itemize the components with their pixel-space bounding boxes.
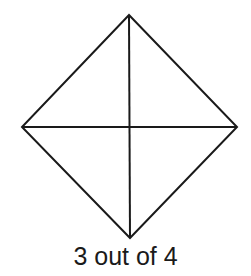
fraction-caption: 3 out of 4 xyxy=(0,242,251,270)
rhombus-diagram xyxy=(0,0,251,276)
